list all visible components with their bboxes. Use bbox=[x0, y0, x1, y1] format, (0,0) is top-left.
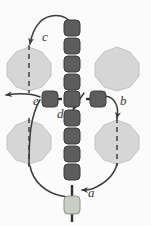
chain-cell-highlighted[interactable] bbox=[64, 196, 80, 214]
chain-cell[interactable] bbox=[64, 164, 80, 180]
cell-group-horizontal bbox=[42, 91, 106, 107]
diagram-figure: a b c d e bbox=[0, 0, 151, 226]
chain-cell[interactable] bbox=[64, 74, 80, 90]
blob-top-right bbox=[95, 47, 139, 91]
label-b: b bbox=[120, 94, 127, 107]
chain-cell[interactable] bbox=[64, 146, 80, 162]
label-e: e bbox=[33, 94, 39, 107]
chain-cell[interactable] bbox=[64, 128, 80, 144]
label-d: d bbox=[57, 107, 64, 120]
cell-group-vertical bbox=[64, 20, 80, 214]
chain-cell[interactable] bbox=[64, 38, 80, 54]
chain-cell-junction[interactable] bbox=[64, 91, 80, 107]
chain-cell[interactable] bbox=[90, 91, 106, 107]
diagram-canvas bbox=[0, 0, 151, 226]
chain-cell[interactable] bbox=[64, 56, 80, 72]
chain-cell[interactable] bbox=[64, 20, 80, 36]
label-c: c bbox=[42, 30, 48, 43]
chain-cell[interactable] bbox=[42, 91, 58, 107]
label-a: a bbox=[88, 186, 95, 199]
chain-cell[interactable] bbox=[64, 110, 80, 126]
